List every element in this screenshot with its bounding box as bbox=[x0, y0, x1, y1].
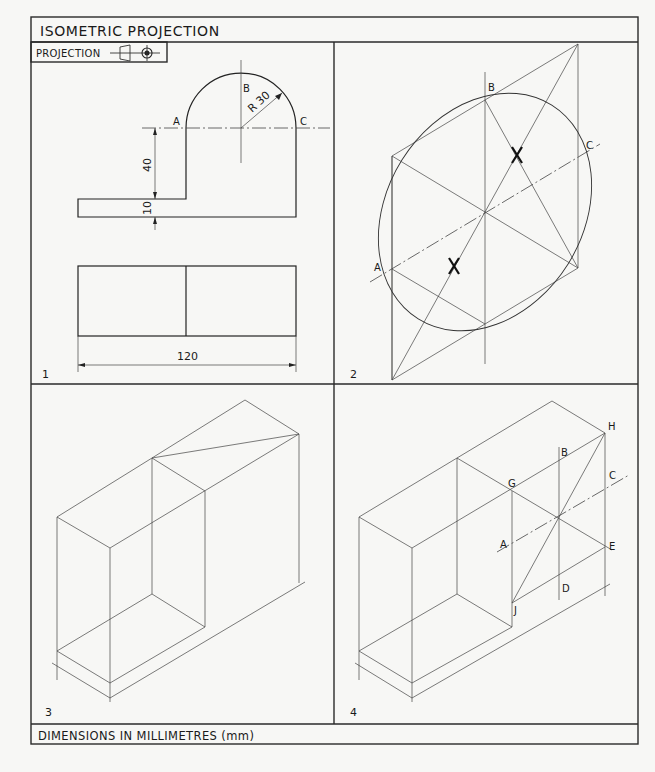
label-b: B bbox=[243, 83, 250, 94]
label-b: B bbox=[488, 82, 495, 93]
label-c: C bbox=[586, 140, 593, 151]
label-c: C bbox=[300, 116, 307, 127]
footer-note: DIMENSIONS IN MILLIMETRES (mm) bbox=[38, 729, 254, 743]
panel-number-2: 2 bbox=[350, 368, 357, 381]
label-h: H bbox=[608, 421, 616, 432]
dim-120: 120 bbox=[177, 350, 198, 363]
dim-10: 10 bbox=[141, 201, 154, 215]
panel-4-isometric-ellipse: B C A D E G H J 4 bbox=[350, 401, 629, 719]
label-g: G bbox=[508, 478, 516, 489]
label-d: D bbox=[562, 583, 570, 594]
label-a: A bbox=[500, 539, 507, 550]
drawing-sheet: ISOMETRIC PROJECTION PROJECTION DIMENSIO… bbox=[0, 0, 655, 772]
label-e: E bbox=[609, 541, 615, 552]
projection-label: PROJECTION bbox=[36, 48, 101, 59]
panel-2-ellipse-construction: B C A 2 bbox=[335, 44, 635, 381]
panel-number-4: 4 bbox=[350, 706, 357, 719]
third-angle-projection-icon bbox=[110, 45, 160, 61]
dim-40: 40 bbox=[141, 158, 154, 172]
label-a: A bbox=[173, 116, 180, 127]
page-title: ISOMETRIC PROJECTION bbox=[40, 23, 220, 39]
label-c: C bbox=[609, 470, 616, 481]
label-a: A bbox=[374, 262, 381, 273]
label-b: B bbox=[561, 447, 568, 458]
panel-1-orthographic: 40 10 R 30 B A C 120 1 bbox=[42, 60, 330, 381]
panel-3-isometric-crate: 3 bbox=[45, 400, 305, 719]
label-j: J bbox=[513, 605, 517, 616]
panel-number-1: 1 bbox=[42, 368, 49, 381]
panel-number-3: 3 bbox=[45, 706, 52, 719]
